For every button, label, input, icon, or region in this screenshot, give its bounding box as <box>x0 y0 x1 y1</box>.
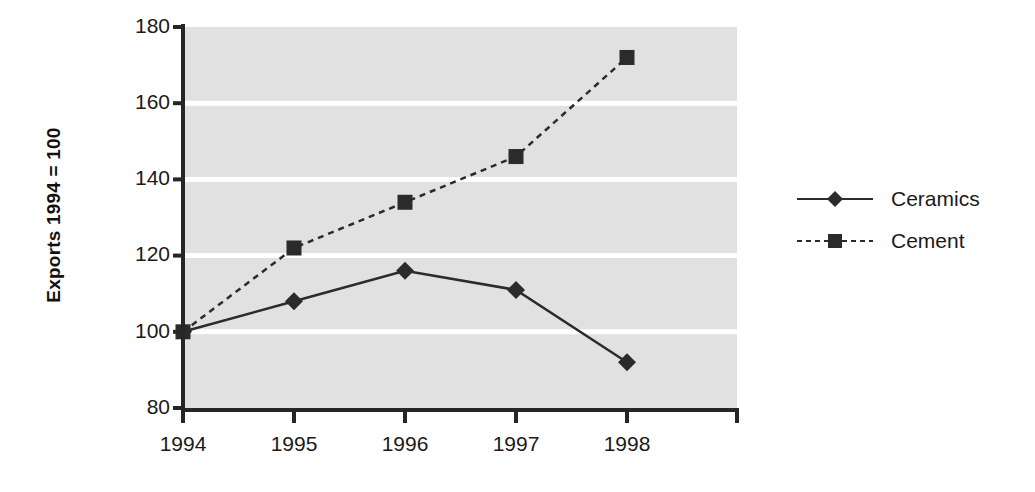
legend-label-ceramics: Ceramics <box>891 187 980 211</box>
legend-item-cement: Cement <box>795 220 1030 262</box>
data-point-marker <box>620 50 635 65</box>
data-point-marker <box>509 149 524 164</box>
legend-marker-ceramics <box>795 187 875 211</box>
chart-figure: Exports 1994 = 100 180 160 140 120 100 8… <box>0 0 1035 492</box>
data-point-marker <box>398 195 413 210</box>
legend-label-cement: Cement <box>891 229 965 253</box>
data-point-marker <box>287 240 302 255</box>
chart-legend: Ceramics Cement <box>795 178 1030 262</box>
plot-background <box>183 27 737 408</box>
legend-marker-cement <box>795 229 875 253</box>
legend-item-ceramics: Ceramics <box>795 178 1030 220</box>
